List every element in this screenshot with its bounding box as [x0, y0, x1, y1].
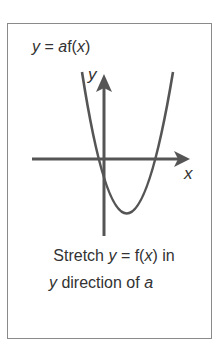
x-axis-label: x	[183, 164, 193, 183]
caption-text: Stretch	[53, 247, 108, 264]
caption-y: y	[49, 274, 57, 291]
caption-line-1: Stretch y = f(x) in	[3, 246, 222, 266]
caption-text: ) in	[152, 247, 174, 264]
caption-a: a	[144, 274, 153, 291]
parabola-curve	[82, 72, 173, 214]
caption-line-2: y direction of a	[0, 273, 212, 293]
y-axis-label: y	[87, 65, 98, 84]
caption-text: direction of	[57, 274, 144, 291]
caption-text: = f(	[116, 247, 144, 264]
graph: y x	[0, 0, 222, 349]
